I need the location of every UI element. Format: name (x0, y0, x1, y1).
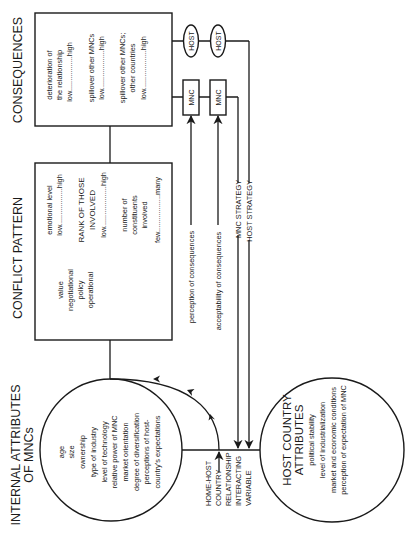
internal-attributes-circle: age size ownership type of industry leve… (40, 379, 182, 521)
title-internal-attributes-line1: INTERNAL ATTRIBUTES (9, 385, 23, 526)
mnc-box-label: MNC (215, 90, 222, 106)
title-consequences: CONSEQUENCES (11, 17, 25, 123)
conflict-dimension: involved (140, 201, 149, 228)
internal-attribute: age (57, 446, 66, 458)
mnc-box-2: MNC (210, 80, 226, 115)
conflict-type: negotiational (66, 269, 75, 311)
title-internal-attributes-line2: OF MNCs (22, 427, 36, 483)
internal-attribute: relative power of MNC (110, 415, 119, 489)
host-oval-label: HOST (215, 31, 222, 51)
host-country-attribute: political stability (307, 414, 316, 466)
conflict-model-diagram: CONSEQUENCES CONFLICT PATTERN INTERNAL A… (0, 0, 414, 549)
consequence-scale: low.................high (65, 42, 74, 102)
host-strategy-label: HOST STRATEGY (245, 180, 254, 242)
host-country-title-line1: HOST COUNTRY (281, 394, 293, 486)
arc-arrow-1-icon (153, 376, 160, 383)
interacting-variable-line: HOME-HOST (204, 460, 213, 506)
conflict-pattern-box: value negotiational policy operational e… (35, 163, 172, 340)
consequence-item: other countries (128, 43, 137, 92)
conflict-type: value (56, 281, 65, 299)
interacting-variable-line: INTERACTING (234, 456, 243, 506)
host-oval-2: HOST (211, 25, 226, 57)
internal-attribute: perceptions of host- (142, 419, 151, 484)
consequences-box: deterioration of the relationship low...… (35, 13, 172, 126)
conflict-dimension: RANK OF THOSE (77, 177, 86, 242)
host-oval-label: HOST (188, 31, 195, 51)
internal-attribute: country's expectations (153, 415, 162, 488)
internal-attribute: size (67, 445, 76, 458)
conflict-dimension: number of (120, 197, 129, 231)
interacting-variable-line: COUNTRY (214, 470, 223, 506)
conflict-scale: few..................many (153, 177, 162, 243)
title-conflict-pattern: CONFLICT PATTERN (11, 197, 25, 319)
mnc-box-1: MNC (183, 80, 199, 115)
conflict-dimension: INVOLVED (88, 190, 97, 230)
internal-attribute: ownership (78, 435, 87, 469)
conflict-type: operational (86, 271, 95, 308)
host-country-attributes-circle: HOST COUNTRY ATTRIBUTES political stabil… (260, 378, 404, 522)
interacting-variable-line: VARIABLE (244, 470, 253, 506)
internal-attribute: degree of diversification (132, 413, 141, 491)
host-country-title-line2: ATTRIBUTES (293, 404, 305, 475)
host-country-attribute: market and economic conditions (329, 387, 338, 493)
conflict-dimension: constituents (130, 195, 139, 235)
consequence-scale: low...................high (97, 36, 106, 100)
internal-attribute: type of industry (89, 427, 98, 477)
consequence-item: spillover other MNCs; (118, 33, 127, 104)
consequence-item: deterioration of (45, 49, 54, 99)
conflict-dimension: emotional level (45, 185, 54, 235)
host-country-attribute: level of industrialization (318, 402, 327, 478)
conflict-scale: low..................high (55, 174, 64, 236)
consequence-scale: low...................high (139, 36, 148, 100)
internal-attribute: level of technology (100, 421, 109, 483)
consequence-item: the relationship (55, 50, 64, 100)
perception-label: perception of consequences (187, 230, 196, 323)
host-country-attribute: perception of expectation of MNC (339, 384, 348, 494)
consequence-item: spillover other MNCs (87, 33, 96, 102)
mnc-box-label: MNC (188, 90, 195, 106)
interacting-variable-line: RELATIONSHIP (224, 452, 233, 506)
mnc-strategy-label: MNC STRATEGY (234, 180, 243, 238)
interacting-variable-label: HOME-HOST COUNTRY RELATIONSHIP INTERACTI… (204, 452, 253, 506)
conflict-type: policy (76, 280, 85, 299)
acceptability-label: acceptability of consequences (214, 231, 223, 330)
host-oval-1: HOST (184, 25, 199, 57)
internal-attribute: market orientation (121, 422, 130, 481)
conflict-scale: low....................high (99, 172, 108, 238)
